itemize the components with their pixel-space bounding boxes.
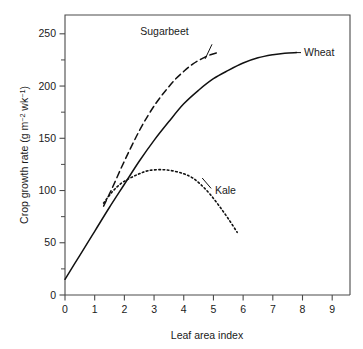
y-axis-label-sup1: −2 <box>18 114 27 122</box>
series-label-sugarbeet: Sugarbeet <box>140 25 189 37</box>
y-tick-label: 100 <box>38 184 56 196</box>
sugarbeet-leader <box>205 44 212 59</box>
chart-svg: 0123456789050100150200250 WheatSugarbeet… <box>0 0 363 349</box>
x-axis-label: Leaf area index <box>171 329 244 341</box>
y-tick-label: 50 <box>44 236 56 248</box>
y-tick-label: 0 <box>50 289 56 301</box>
y-axis-label: Crop growth rate (g m−2 wk−1) <box>18 86 31 224</box>
y-axis-label-main: Crop growth rate (g m <box>18 122 30 224</box>
x-tick-label: 0 <box>62 303 68 315</box>
x-tick-label: 5 <box>211 303 217 315</box>
series-label-wheat: Wheat <box>304 46 334 58</box>
x-tick-label: 4 <box>181 303 187 315</box>
x-tick-label: 2 <box>121 303 127 315</box>
series-curves <box>65 53 297 280</box>
svg-text:Crop growth rate (g m−2 wk−1): Crop growth rate (g m−2 wk−1) <box>18 86 31 224</box>
y-tick-label: 250 <box>38 27 56 39</box>
x-tick-label: 8 <box>300 303 306 315</box>
y-axis-label-close: ) <box>18 86 30 90</box>
x-tick-label: 6 <box>240 303 246 315</box>
axis-ticks <box>60 34 333 301</box>
curve-wheat <box>65 53 297 280</box>
x-tick-label: 3 <box>151 303 157 315</box>
y-tick-label: 150 <box>38 132 56 144</box>
y-axis-label-mid: wk <box>18 97 30 114</box>
y-axis-label-sup2: −1 <box>18 90 27 98</box>
x-tick-label: 1 <box>92 303 98 315</box>
x-tick-label: 7 <box>270 303 276 315</box>
kale-leader <box>202 178 211 188</box>
y-tick-label: 200 <box>38 80 56 92</box>
axis-tick-labels: 0123456789050100150200250 <box>38 27 335 315</box>
series-label-kale: Kale <box>215 184 236 196</box>
curve-kale <box>104 170 238 233</box>
x-tick-label: 9 <box>329 303 335 315</box>
crop-growth-rate-chart: 0123456789050100150200250 WheatSugarbeet… <box>0 0 363 349</box>
